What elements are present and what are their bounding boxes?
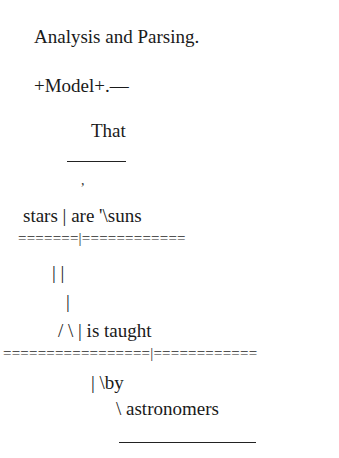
diagram-predicate-line: / \ | is taught	[58, 321, 152, 340]
model-label: +Model+.—	[34, 76, 129, 95]
diagram-clause-line: stars | are '\suns	[23, 206, 142, 225]
diagram-by-line: | \by	[91, 373, 124, 392]
object-underline	[119, 442, 256, 443]
diagram-object-line: \ astronomers	[116, 399, 219, 418]
diagram-modifier-that: That	[91, 121, 126, 140]
modifier-underline	[67, 161, 126, 162]
diagram-comma-mark: ,	[81, 174, 85, 188]
section-heading: Analysis and Parsing.	[34, 27, 199, 46]
diagram-double-bar: | |	[52, 263, 64, 282]
diagram-single-bar: |	[66, 292, 70, 311]
diagram-main-baseline: =================|============	[3, 346, 257, 361]
diagram-clause-baseline: =======|============	[18, 231, 186, 246]
